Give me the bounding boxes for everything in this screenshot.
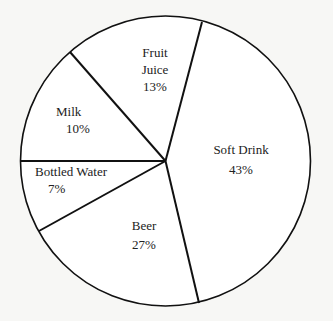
label-soft-drink-name: Soft Drink	[206, 141, 276, 158]
label-fruit-juice-line1: Fruit	[125, 44, 185, 61]
label-beer: Beer 27%	[114, 217, 174, 253]
label-beer-name: Beer	[114, 217, 174, 234]
label-bottled-water: Bottled Water 7%	[35, 163, 115, 197]
label-fruit-juice-pct: 13%	[125, 78, 185, 95]
label-milk-name: Milk	[56, 103, 96, 120]
label-milk-pct: 10%	[56, 120, 96, 137]
label-soft-drink-pct: 43%	[206, 161, 276, 178]
label-beer-pct: 27%	[114, 236, 174, 253]
label-bottled-water-name: Bottled Water	[35, 163, 115, 180]
label-fruit-juice: Fruit Juice 13%	[125, 44, 185, 95]
label-fruit-juice-line2: Juice	[125, 61, 185, 78]
label-soft-drink: Soft Drink 43%	[206, 141, 276, 178]
label-milk: Milk 10%	[56, 103, 96, 137]
label-bottled-water-pct: 7%	[35, 180, 115, 197]
